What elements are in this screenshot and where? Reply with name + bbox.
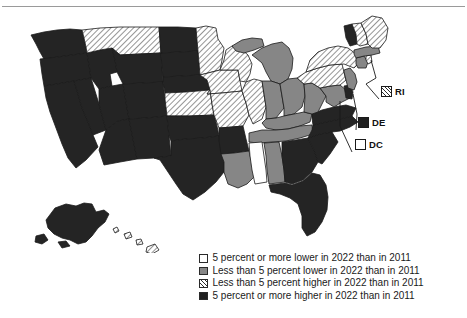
map-legend: 5 percent or more lower in 2022 than in … bbox=[199, 252, 465, 302]
callout-ri-swatch-icon bbox=[381, 86, 392, 97]
callout-dc[interactable]: DC bbox=[355, 139, 383, 150]
state-SD[interactable] bbox=[161, 51, 200, 77]
legend-label-higher5: 5 percent or more higher in 2022 than in… bbox=[213, 291, 415, 301]
legend-swatch-white-box-icon bbox=[199, 254, 208, 263]
callout-de[interactable]: DE bbox=[358, 117, 385, 128]
legend-swatch-black-box-icon bbox=[199, 292, 208, 301]
state-RI[interactable] bbox=[366, 55, 372, 64]
state-AK[interactable] bbox=[35, 203, 109, 248]
legend-label-lower5: 5 percent or more lower in 2022 than in … bbox=[213, 253, 411, 263]
legend-label-higherlt5: Less than 5 percent higher in 2022 than … bbox=[213, 278, 424, 288]
callout-ri[interactable]: RI bbox=[381, 86, 405, 97]
state-HI[interactable] bbox=[113, 227, 159, 253]
callout-dc-label: DC bbox=[369, 140, 383, 150]
legend-item-higherlt5[interactable]: Less than 5 percent higher in 2022 than … bbox=[199, 277, 465, 290]
state-AR[interactable] bbox=[219, 126, 249, 154]
state-CO[interactable] bbox=[123, 82, 167, 119]
us-map-svg bbox=[0, 8, 467, 253]
callout-dc-swatch-icon bbox=[355, 139, 366, 150]
leader-line-ri bbox=[366, 60, 379, 99]
figure-container: RI DE DC 5 percent or more lower in 2022… bbox=[0, 0, 467, 318]
legend-label-lowerlt5: Less than 5 percent lower in 2022 than i… bbox=[213, 266, 420, 276]
callout-ri-label: RI bbox=[395, 87, 405, 97]
legend-swatch-gray-box-icon bbox=[199, 267, 208, 276]
legend-item-lowerlt5[interactable]: Less than 5 percent lower in 2022 than i… bbox=[199, 265, 465, 278]
state-MN[interactable] bbox=[196, 26, 224, 75]
top-divider-rule bbox=[2, 6, 465, 7]
state-ND[interactable] bbox=[159, 27, 198, 53]
legend-swatch-hatched-box-icon bbox=[199, 279, 208, 288]
legend-item-higher5[interactable]: 5 percent or more higher in 2022 than in… bbox=[199, 290, 465, 303]
callout-de-label: DE bbox=[372, 118, 385, 128]
state-OH[interactable] bbox=[280, 78, 305, 116]
state-MT[interactable] bbox=[82, 27, 161, 55]
us-choropleth-map bbox=[0, 8, 467, 253]
callout-de-swatch-icon bbox=[358, 117, 369, 128]
states-layer bbox=[31, 16, 388, 253]
legend-item-lower5[interactable]: 5 percent or more lower in 2022 than in … bbox=[199, 252, 465, 265]
